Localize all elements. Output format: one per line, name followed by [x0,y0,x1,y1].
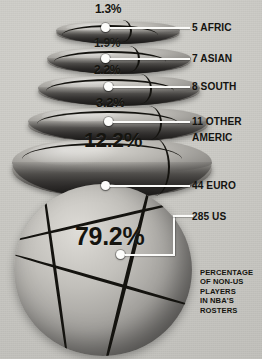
legend-label-other-americas-line2: AMERIC [192,131,232,143]
leader-line-us-lower [125,254,175,256]
leader-line-asian [110,58,190,60]
leader-line-us-vertical [173,215,175,256]
ball-layer-us-sphere [14,184,192,356]
caption-line-5: ROSTERS [200,306,262,315]
caption-line-3: PLAYERS [200,287,262,296]
ball-seam [14,252,192,312]
leader-line-other-americas [113,121,190,123]
pct-label-european: 12.2% [84,128,142,152]
leader-line-african [110,27,190,29]
legend-label-european: 44 EURO [192,179,236,191]
leader-dot-african [101,23,110,32]
leader-dot-european [101,181,110,190]
caption-line-4: IN NBA'S [200,296,262,305]
pct-label-other-americas: 3.2% [96,95,124,110]
caption-line-2: OF NON-US [200,277,262,286]
leader-line-us-upper [173,215,193,217]
legend-label-african: 5 AFRIC [192,21,232,33]
leader-dot-other-americas [104,117,113,126]
leader-dot-asian [101,54,110,63]
pct-label-us: 79.2% [75,222,144,251]
caption-block: PERCENTAGE OF NON-US PLAYERS IN NBA'S RO… [200,268,262,315]
legend-label-south-american: 8 SOUTH [192,80,237,92]
leader-dot-south-american [104,82,113,91]
pct-label-african: 1.3% [95,2,121,16]
leader-line-south-american [113,86,190,88]
pct-label-south-american: 2.2% [94,63,120,77]
legend-label-us: 285 US [192,210,226,222]
caption-line-1: PERCENTAGE [200,268,262,277]
leader-line-european [110,185,190,187]
legend-label-other-americas: 11 OTHER [192,115,242,127]
pct-label-asian: 1.9% [94,36,120,50]
leader-dot-us [116,250,125,259]
infographic-canvas: 1.3% 1.9% 2.2% 3.2% 12.2% 79.2% 5 AFRIC … [0,0,262,359]
legend-label-asian: 7 ASIAN [192,52,232,64]
